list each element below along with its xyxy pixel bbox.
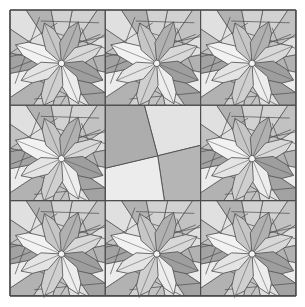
quilt-tile-star [105, 201, 200, 299]
quilt-tile-star [201, 105, 296, 203]
quilt-tile-star [105, 10, 200, 108]
quilt-tile-pinwheel [105, 105, 200, 200]
star-center-hub [154, 251, 161, 257]
star-center-hub [58, 60, 65, 66]
star-center-hub [249, 251, 256, 257]
star-center-hub [58, 155, 65, 161]
star-center-hub [249, 60, 256, 66]
quilt-pattern-svg [0, 0, 305, 307]
quilt-tile-star [10, 201, 105, 299]
quilt-figure [0, 0, 305, 307]
star-center-hub [249, 155, 256, 161]
quilt-tile-star [10, 10, 105, 108]
quilt-tile-star [10, 105, 105, 203]
star-center-hub [154, 60, 161, 66]
quilt-tile-star [201, 201, 296, 299]
quilt-tile-star [201, 10, 296, 108]
tiles-layer [10, 10, 296, 298]
star-center-hub [58, 251, 65, 257]
